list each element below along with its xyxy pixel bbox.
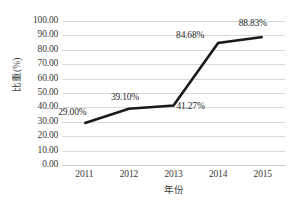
y-axis-tick-label: 0.00 (14, 160, 58, 170)
y-axis-tick-label: 20.00 (14, 131, 58, 141)
x-axis-tick-label: 2011 (61, 170, 107, 180)
x-axis-tick-label: 2013 (151, 170, 197, 180)
plot-area: 29.00%39.10%41.27%84.68%88.83% (62, 21, 285, 165)
line-chart: 100.0090.0080.0070.0060.0050.0040.0030.0… (0, 0, 299, 206)
gridline (62, 165, 285, 166)
data-point-label: 88.83% (239, 19, 267, 29)
data-point-label: 29.00% (58, 108, 86, 118)
y-axis-tick-label: 90.00 (14, 30, 58, 40)
x-axis-tick-label: 2015 (240, 170, 286, 180)
series-line (62, 21, 285, 165)
y-axis-tick-label: 10.00 (14, 146, 58, 156)
x-axis-tick-labels: 20112012201320142015 (62, 170, 285, 184)
data-point-label: 39.10% (111, 93, 139, 103)
data-point-label: 84.68% (176, 31, 204, 41)
series-polyline (84, 37, 262, 123)
data-point-label: 41.27% (177, 102, 205, 112)
y-axis-tick-label: 100.00 (14, 16, 58, 26)
x-axis-title: 年份 (62, 186, 285, 196)
x-axis-tick-label: 2014 (195, 170, 241, 180)
y-axis-title: 比重(%) (13, 45, 23, 105)
x-axis-tick-label: 2012 (106, 170, 152, 180)
y-axis-tick-label: 30.00 (14, 117, 58, 127)
